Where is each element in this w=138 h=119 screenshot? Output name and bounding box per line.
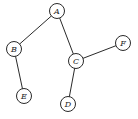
- edges-layer: [14, 11, 123, 104]
- node-label: A: [53, 7, 60, 16]
- node-a: A: [50, 4, 65, 19]
- node-b: B: [7, 42, 22, 57]
- edge-a-c: [57, 11, 76, 61]
- graph-diagram: ABCDEF: [0, 0, 138, 119]
- node-d: D: [61, 97, 76, 112]
- node-label: B: [10, 45, 17, 54]
- node-f: F: [116, 36, 131, 51]
- node-c: C: [69, 54, 84, 69]
- node-label: E: [20, 92, 27, 101]
- node-label: C: [73, 57, 79, 66]
- node-e: E: [17, 89, 32, 104]
- node-label: F: [119, 39, 126, 48]
- nodes-layer: ABCDEF: [7, 4, 131, 112]
- node-label: D: [64, 100, 72, 109]
- edge-a-b: [14, 11, 57, 49]
